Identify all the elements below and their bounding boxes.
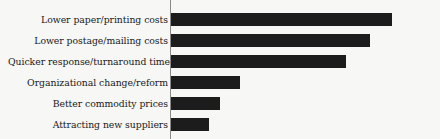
bar-row: Quicker response/turnaround time: [0, 51, 440, 72]
bar-row: Attracting new suppliers: [0, 114, 440, 135]
bar-value: [171, 118, 209, 131]
bar-value: [171, 13, 392, 26]
category-label: Attracting new suppliers: [8, 119, 168, 130]
bar-row: Lower postage/mailing costs: [0, 30, 440, 51]
bar-value: [171, 76, 240, 89]
bar-value: [171, 34, 370, 47]
bar-chart: Lower paper/printing costs Lower postage…: [0, 0, 440, 139]
bar-row: Organizational change/reform: [0, 72, 440, 93]
category-label: Lower paper/printing costs: [8, 14, 168, 25]
category-label: Lower postage/mailing costs: [8, 35, 168, 46]
category-label: Quicker response/turnaround time: [8, 56, 168, 67]
bar-track: [171, 55, 346, 68]
plot-area: Lower paper/printing costs Lower postage…: [0, 0, 440, 139]
bar-track: [171, 118, 209, 131]
bar-track: [171, 97, 220, 110]
bar-track: [171, 76, 240, 89]
bar-value: [171, 55, 346, 68]
category-label: Better commodity prices: [8, 98, 168, 109]
bar-row: Lower paper/printing costs: [0, 9, 440, 30]
bar-row: Better commodity prices: [0, 93, 440, 114]
bar-track: [171, 13, 392, 26]
category-label: Organizational change/reform: [8, 77, 168, 88]
bar-track: [171, 34, 370, 47]
bar-value: [171, 97, 220, 110]
